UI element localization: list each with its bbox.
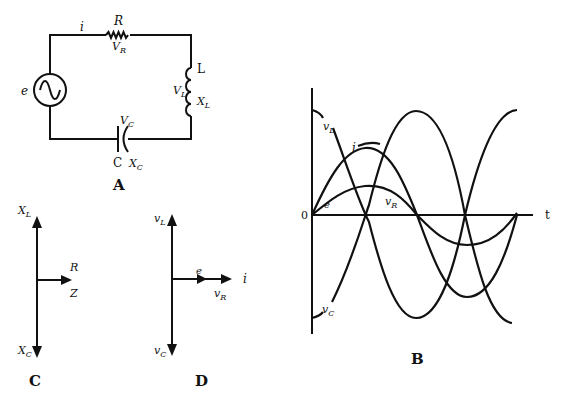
vc-curve-label: vC	[322, 303, 334, 318]
vl-start-stub	[312, 110, 323, 118]
panel-label-d: D	[195, 372, 208, 390]
resistor-icon	[106, 32, 128, 38]
vl-label: vL	[154, 212, 166, 227]
i-curve-label: i	[352, 141, 356, 155]
origin-label: 0	[301, 209, 308, 222]
sine-wave-icon	[40, 81, 60, 99]
wire-top-right	[130, 35, 191, 68]
r-label: R	[69, 261, 78, 274]
vr-curve-label: vR	[385, 195, 397, 210]
z-label: Z	[69, 287, 78, 300]
wire-right-bottom	[128, 116, 191, 139]
capacitor-voltage-label: VC	[120, 114, 134, 129]
vr-label: vR	[214, 287, 226, 302]
e-label: e	[196, 265, 202, 276]
inductor-icon	[186, 68, 191, 116]
wire-top-left	[50, 35, 106, 74]
arrow-down-icon	[32, 346, 42, 358]
curve-vl-phase-shifted	[332, 111, 512, 323]
inductor-label: L	[197, 62, 205, 76]
t-axis-label: t	[545, 208, 550, 222]
inductor-reactance-label: XL	[196, 95, 210, 110]
circuit-diagram: e i R VR L VL XL VC C XC A	[21, 14, 210, 194]
xl-label: XL	[17, 204, 31, 219]
i-label: i	[243, 272, 247, 286]
voltage-phasor-diagram: vL vC e i vR D	[154, 212, 247, 390]
inductor-voltage-label: VL	[173, 84, 186, 99]
panel-label-c: C	[29, 372, 41, 390]
arrow-up-icon	[167, 214, 177, 226]
arrow-right-i-icon	[221, 274, 232, 284]
source-label: e	[21, 84, 28, 98]
arrow-down-icon	[167, 344, 177, 356]
panel-label-a: A	[112, 176, 125, 194]
arrow-right-icon	[61, 275, 72, 285]
panel-label-b: B	[411, 350, 424, 368]
wire-bottom-left	[50, 106, 118, 139]
capacitor-reactance-label: XC	[128, 157, 143, 172]
vl-curve-label: vL	[323, 120, 335, 135]
arrow-up-icon	[32, 216, 42, 228]
impedance-phasor-diagram: XL XC R Z C	[17, 204, 78, 390]
current-label: i	[80, 20, 84, 34]
i-label-stub	[358, 143, 380, 146]
waveform-chart: 0 t vL i e vR vC B	[301, 88, 550, 368]
resistor-voltage-label: VR	[112, 40, 126, 55]
capacitor-label: C	[113, 156, 122, 170]
xc-label: XC	[17, 344, 32, 359]
curve-i	[312, 148, 517, 297]
vc-label: vC	[154, 344, 166, 359]
e-curve-label: e	[324, 199, 330, 210]
capacitor-curved-plate-icon	[124, 126, 129, 152]
figure-canvas: e i R VR L VL XL VC C XC A XL XC R Z C v…	[0, 0, 565, 400]
resistor-label: R	[113, 14, 123, 28]
